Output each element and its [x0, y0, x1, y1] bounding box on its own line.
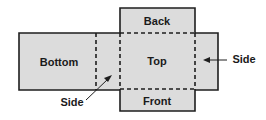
- box-net-diagram: Back Top Front Bottom Side Side: [0, 0, 266, 120]
- callout-label-side-left: Side: [60, 96, 83, 108]
- face-label-back: Back: [144, 15, 171, 27]
- callout-label-side-right: Side: [232, 53, 255, 65]
- face-label-bottom: Bottom: [40, 56, 79, 68]
- face-label-front: Front: [143, 95, 171, 107]
- face-label-top: Top: [147, 55, 167, 67]
